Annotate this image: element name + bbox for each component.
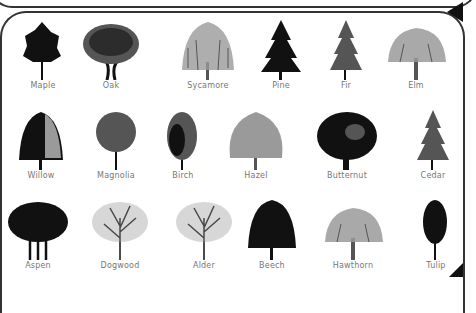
tree-label: Pine [272, 81, 290, 90]
tree-tile-beech: Beech [242, 198, 302, 270]
tree-label: Cedar [421, 171, 446, 180]
tree-tile-aspen: Aspen [8, 198, 68, 270]
decorative-frame-top [0, 0, 476, 8]
tree-illustration-icon [153, 108, 213, 170]
tree-illustration-icon [317, 108, 377, 170]
tree-label: Magnolia [97, 171, 135, 180]
tree-tile-magnolia: Magnolia [86, 108, 146, 180]
tree-label: Alder [193, 261, 215, 270]
tree-tile-pine: Pine [251, 18, 311, 90]
tree-label: Aspen [25, 261, 51, 270]
tree-label: Hawthorn [333, 261, 373, 270]
tree-tile-tulip: Tulip [406, 198, 466, 270]
tree-illustration-icon [174, 198, 234, 260]
tree-tile-elm: Elm [386, 18, 446, 90]
tree-illustration-icon [81, 18, 141, 80]
tree-tile-hawthorn: Hawthorn [323, 198, 383, 270]
tree-label: Birch [172, 171, 193, 180]
tree-illustration-icon [242, 198, 302, 260]
tree-label: Dogwood [101, 261, 140, 270]
tree-illustration-icon [13, 18, 73, 80]
tree-tile-oak: Oak [81, 18, 141, 90]
tree-illustration-icon [386, 18, 446, 80]
tree-illustration-icon [403, 108, 463, 170]
tree-label: Butternut [327, 171, 367, 180]
tree-label: Beech [259, 261, 285, 270]
tree-label: Tulip [426, 261, 445, 270]
tree-label: Hazel [244, 171, 267, 180]
tree-illustration-icon [86, 108, 146, 170]
tree-label: Fir [341, 81, 351, 90]
tree-tile-hazel: Hazel [226, 108, 286, 180]
tree-tile-alder: Alder [174, 198, 234, 270]
tree-label: Elm [408, 81, 424, 90]
tree-label: Willow [27, 171, 54, 180]
tree-tile-cedar: Cedar [403, 108, 463, 180]
tree-tile-sycamore: Sycamore [178, 18, 238, 90]
tree-tile-birch: Birch [153, 108, 213, 180]
tree-illustration-icon [251, 18, 311, 80]
tree-label: Maple [30, 81, 55, 90]
tree-illustration-icon [316, 18, 376, 80]
tree-illustration-icon [406, 198, 466, 260]
tree-tile-maple: Maple [13, 18, 73, 90]
tree-illustration-icon [90, 198, 150, 260]
tree-illustration-icon [8, 198, 68, 260]
tree-label: Oak [103, 81, 119, 90]
tree-tile-dogwood: Dogwood [90, 198, 150, 270]
tree-illustration-icon [323, 198, 383, 260]
tree-illustration-icon [178, 18, 238, 80]
tree-tile-willow: Willow [11, 108, 71, 180]
tree-illustration-icon [226, 108, 286, 170]
tree-tile-fir: Fir [316, 18, 376, 90]
tree-tile-butternut: Butternut [317, 108, 377, 180]
tree-illustration-icon [11, 108, 71, 170]
tree-label: Sycamore [187, 81, 228, 90]
